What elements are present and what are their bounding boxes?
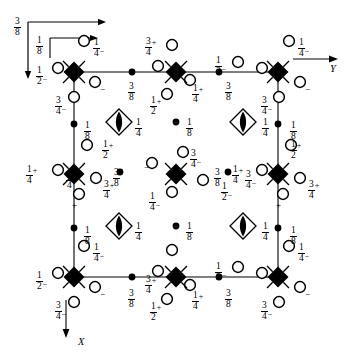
circle-center-below: [167, 187, 178, 198]
lbl-left-plus-below: +: [72, 196, 77, 212]
lbl-bot-half-plus: 12+: [150, 302, 161, 322]
circle-bot-above-mid: [167, 245, 178, 256]
lbl-bot-threequarter-plus: 34+: [145, 275, 156, 295]
diagram-canvas: [0, 0, 349, 359]
diamond-corner-br-tick-1: [283, 266, 289, 272]
lbl-center-threeeighth-right: 38: [214, 168, 221, 188]
lbl-tr-minus-right: −: [305, 80, 310, 96]
lbl-left-quarter-plus: 14+: [26, 165, 37, 185]
dot-left-edge-lower: [71, 225, 78, 232]
lbl-bl-threequarter-below: 34−: [55, 301, 66, 321]
circle-br-right: [295, 282, 306, 293]
lbl-top-threeeighth-2: 38: [225, 82, 232, 102]
diamond-edge-bottom-tick-0: [165, 266, 171, 272]
circle-bot-right-mid: [185, 280, 196, 291]
circle-bl-below: [69, 297, 80, 308]
circle-left-of-mid: [53, 165, 64, 176]
lbl-tr-threequarter-below: 34−: [261, 96, 272, 116]
diamond-corner-bl-tick-2: [79, 282, 85, 288]
circle-top-above-mid: [167, 40, 178, 51]
dot-interior-tl: [173, 119, 180, 126]
circle-right-of-mid: [257, 165, 268, 176]
lbl-top-half-plus: 12+: [150, 96, 161, 116]
circle-tl-below: [69, 92, 80, 103]
lbl-top-quarter-plus: 14+: [192, 84, 203, 104]
lbl-center-quarter-below: 14−: [149, 192, 160, 212]
circle-tl-left: [53, 63, 64, 74]
diamond-corner-tr-tick-1: [283, 61, 289, 67]
y-axis-arrow-head: [329, 56, 338, 63]
diamond-edge-top-tick-3: [165, 77, 171, 83]
lbl-top-threequarter-plus: 34+: [145, 37, 156, 57]
outer-origin-arrow-head-down: [25, 71, 31, 79]
lbl-tr-quarter-above: 14−: [298, 38, 309, 58]
circle-left-right-mid: [91, 173, 102, 184]
circle-tr-above: [284, 36, 295, 47]
diamond-center-tick-0: [165, 163, 171, 169]
axis-label-Y: Y: [330, 63, 336, 74]
dot-right-edge-lower: [275, 225, 282, 232]
diamond-edge-bottom-tick-1: [181, 266, 187, 272]
lbl-right-threequarter-plus: 34+: [308, 180, 319, 200]
circle-top-below-mid: [162, 89, 173, 100]
diamond-center-tick-3: [165, 179, 171, 185]
lbl-center-half-minus: 12−: [221, 182, 232, 202]
lbl-center-minus-left: −: [144, 158, 149, 174]
diamond-edge-right-tick-1: [283, 163, 289, 169]
diamond-edge-left-tick-0: [63, 163, 69, 169]
lbl-right-oneeighth-lower: 18: [290, 226, 297, 246]
dot-bottom-edge-left: [129, 274, 136, 281]
diamond-corner-bl-tick-3: [63, 282, 69, 288]
lbl-tl-threequarter-below: 34−: [55, 96, 66, 116]
dot-right-edge-upper: [275, 121, 282, 128]
dot-interior-midright: [225, 169, 232, 176]
lbl-center-threeeighth-left: 38: [113, 168, 120, 188]
lbl-top-half-minus: 12−: [215, 56, 226, 76]
lbl-center-threequarter-minus-far-right: 34−: [245, 170, 256, 190]
circle-center-above: [178, 147, 189, 158]
diamond-corner-br-tick-3: [267, 282, 273, 288]
lbl-right-quarter-plus: 14+: [232, 165, 243, 185]
diamond-corner-tr-tick-2: [283, 77, 289, 83]
lbl-tl-quarter-above: 14−: [93, 38, 104, 58]
space-group-diagram: 3818YX14−12−−34−3834+12+14+3812−14−−34−1…: [0, 0, 349, 359]
diamond-corner-tr-tick-0: [267, 61, 273, 67]
lbl-bot-threeeighth-2: 38: [225, 289, 232, 309]
diamond-corner-br-tick-2: [283, 282, 289, 288]
diamond-edge-top-tick-1: [181, 61, 187, 67]
lbl-lens-tr-quarter: 14: [262, 118, 269, 138]
diamond-edge-right-tick-3: [267, 179, 273, 185]
lbl-bl-quarter-above: 14−: [93, 243, 104, 263]
diamond-corner-tl-tick-3: [63, 77, 69, 83]
dot-interior-bl: [173, 223, 180, 230]
circle-br-below: [274, 297, 285, 308]
lbl-tl-minus-right: −: [100, 80, 105, 96]
dot-top-edge-left: [129, 69, 136, 76]
lbl-br-quarter-above: 14−: [298, 243, 309, 263]
lbl-dot-tl-oneeighth: 18: [186, 118, 193, 138]
diamond-corner-tl-tick-2: [79, 77, 85, 83]
circle-bl-left: [53, 268, 64, 279]
lbl-bot-quarter-plus: 14+: [192, 291, 203, 311]
diamond-edge-top-tick-0: [165, 61, 171, 67]
lbl-lens-bl-quarter: 14: [135, 222, 142, 242]
lbl-right-plus-below: +: [276, 196, 281, 212]
circle-center-right: [198, 175, 209, 186]
lbl-left-oneeighth-lower: 18: [84, 226, 91, 246]
diamond-edge-left-tick-2: [79, 179, 85, 185]
lbl-top-threeeighth-1: 38: [128, 82, 135, 102]
circle-tr-left: [257, 63, 268, 74]
lbl-left-half-plus: 12+: [102, 140, 113, 160]
x-axis-arrow-head: [63, 329, 70, 338]
circle-top-left-of-mid: [153, 61, 164, 72]
lbl-left-oneeighth-upper: 18: [84, 121, 91, 141]
lbl-bl-half-left: 12−: [36, 271, 47, 291]
diamond-corner-bl-tick-1: [79, 266, 85, 272]
circle-bot-half-minus: [233, 262, 244, 273]
diamond-corner-tl-tick-0: [63, 61, 69, 67]
diamond-edge-right-tick-2: [283, 179, 289, 185]
lbl-bl-minus-right: −: [100, 285, 105, 301]
circle-tr-below: [274, 92, 285, 103]
circle-right-right-mid: [295, 173, 306, 184]
outer-origin-arrow-head-right: [98, 19, 106, 25]
